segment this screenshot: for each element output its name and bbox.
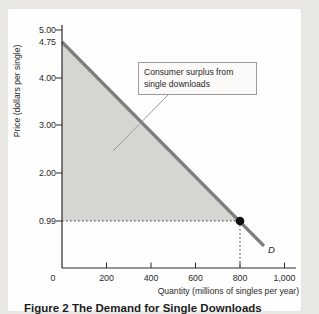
x-tick-0: 0 bbox=[51, 273, 56, 283]
x-tick-400: 400 bbox=[144, 273, 159, 283]
x-tick-1000: 1,000 bbox=[273, 273, 295, 283]
x-axis-title: Quantity (millions of singles per year) bbox=[158, 286, 300, 296]
y-tick-5.00: 5.00 bbox=[39, 25, 56, 35]
x-axis-ticks bbox=[107, 263, 285, 269]
y-tick-2.00: 2.00 bbox=[39, 168, 56, 178]
x-tick-200: 200 bbox=[99, 273, 114, 283]
x-tick-800: 800 bbox=[233, 273, 248, 283]
y-axis-title: Price (dollars per single) bbox=[12, 45, 22, 138]
y-tick-4.00: 4.00 bbox=[39, 73, 56, 83]
equilibrium-point-marker bbox=[236, 217, 245, 226]
callout-text-line2: single downloads bbox=[144, 78, 251, 90]
figure-caption: Figure 2 The Demand for Single Downloads bbox=[24, 302, 304, 314]
y-tick-0.99: 0.99 bbox=[39, 216, 56, 226]
y-axis-ticks bbox=[56, 30, 62, 221]
demand-curve-label: D bbox=[268, 244, 275, 255]
consumer-surplus-callout: Consumer surplus from single downloads bbox=[138, 62, 257, 95]
y-tick-3.00: 3.00 bbox=[39, 120, 56, 130]
x-tick-600: 600 bbox=[188, 273, 203, 283]
callout-text-line1: Consumer surplus from bbox=[144, 66, 251, 78]
y-tick-4.75: 4.75 bbox=[39, 37, 56, 47]
